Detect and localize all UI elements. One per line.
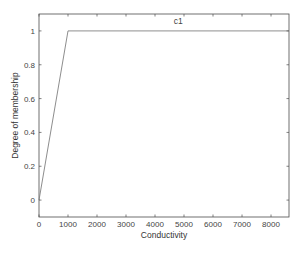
x-tick-label: 7000 [233, 220, 251, 229]
x-axis-label: Conductivity [141, 230, 188, 240]
x-tick-label: 1000 [59, 220, 77, 229]
y-tick-label: 0.4 [24, 128, 36, 137]
y-tick-label: 0.8 [24, 61, 36, 70]
x-axis-ticks: 010002000300040005000600070008000 [37, 14, 281, 229]
x-tick-label: 5000 [175, 220, 193, 229]
x-tick-label: 3000 [117, 220, 135, 229]
curves [39, 31, 289, 200]
curve-labels: c1 [174, 16, 183, 26]
axes-box [39, 14, 289, 217]
y-tick-label: 0.2 [24, 162, 36, 171]
y-tick-label: 0.6 [24, 95, 36, 104]
y-tick-label: 0 [31, 196, 36, 205]
plot-area [39, 14, 289, 217]
x-tick-label: 2000 [88, 220, 106, 229]
y-tick-label: 1 [31, 27, 36, 36]
curve-c1 [39, 31, 289, 200]
y-axis-ticks: 00.20.40.60.81 [24, 27, 289, 205]
curve-label: c1 [174, 16, 183, 26]
x-tick-label: 6000 [204, 220, 222, 229]
x-tick-label: 0 [37, 220, 42, 229]
x-tick-label: 4000 [146, 220, 164, 229]
membership-function-chart: 010002000300040005000600070008000 00.20.… [0, 0, 305, 256]
y-axis-label: Degree of membership [10, 72, 20, 159]
x-tick-label: 8000 [262, 220, 280, 229]
